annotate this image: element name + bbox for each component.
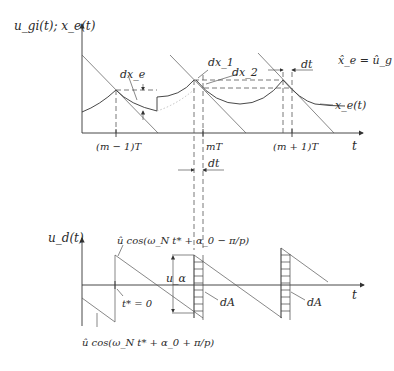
mid-dt-label: dt xyxy=(208,157,220,170)
dxe-label: dx_e xyxy=(120,68,146,81)
upper-expr-leader xyxy=(118,245,123,256)
xe-curve-b xyxy=(116,90,157,111)
dA1-label: dA xyxy=(220,296,235,309)
saw-seg-3 xyxy=(281,248,328,282)
upper-expr-label: û cos(ω_N t* + α_0 − π/p) xyxy=(117,235,249,247)
xe-curve-label: x_e(t) xyxy=(335,99,366,112)
diagram-canvas: u_gi(t); x_e(t) t (m − 1)T mT (m + 1)T d… xyxy=(0,0,394,371)
dA1-leader xyxy=(205,292,218,300)
tick-label-m+1: (m + 1)T xyxy=(273,141,319,152)
hatch-region-2 xyxy=(281,248,290,320)
middle-dt: dt xyxy=(178,157,224,170)
tstar-leader xyxy=(117,289,123,296)
dt-label-top: dt xyxy=(301,58,313,71)
equality-label: x̂_e = û_g xyxy=(338,54,392,67)
top-plot: u_gi(t); x_e(t) t (m − 1)T mT (m + 1)T d… xyxy=(14,19,392,250)
ualpha-label: u_α xyxy=(166,272,187,285)
dx1-label: dx_1 xyxy=(208,56,234,69)
xe-dotted-continuation xyxy=(157,88,196,111)
top-y-label: u_gi(t); x_e(t) xyxy=(14,19,96,33)
saw-seg-2 xyxy=(194,255,282,318)
saw-seg-0 xyxy=(82,298,115,322)
dA2-leader xyxy=(291,292,305,300)
tick-label-m: mT xyxy=(206,141,223,152)
dx2-label: dx_2 xyxy=(232,66,258,79)
tstar-label: t* = 0 xyxy=(122,298,153,309)
xe-curve-a xyxy=(82,90,116,112)
bottom-y-label: u_d(t) xyxy=(48,231,84,245)
lower-expr-label: û cos(ω_N t* + α_0 + π/p) xyxy=(82,337,214,349)
top-x-label: t xyxy=(352,139,357,153)
bottom-x-label: t xyxy=(352,288,357,302)
hatch-region-1 xyxy=(194,255,203,320)
xe-curve-d xyxy=(196,80,283,104)
dA2-label: dA xyxy=(307,296,322,309)
tick-label-m-1: (m − 1)T xyxy=(96,141,142,152)
bottom-plot: u_d(t) t û cos(ω_N t* + α_0 − π/p) û cos… xyxy=(48,231,364,349)
